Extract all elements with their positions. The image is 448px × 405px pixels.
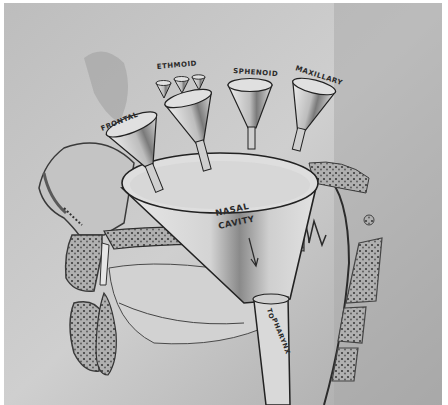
illustration-frame: FRONTAL ETHMOID SPHENOID MAXILLARY NASAL… [0,0,448,405]
sinus-funnel-diagram: FRONTAL ETHMOID SPHENOID MAXILLARY NASAL… [4,3,442,405]
